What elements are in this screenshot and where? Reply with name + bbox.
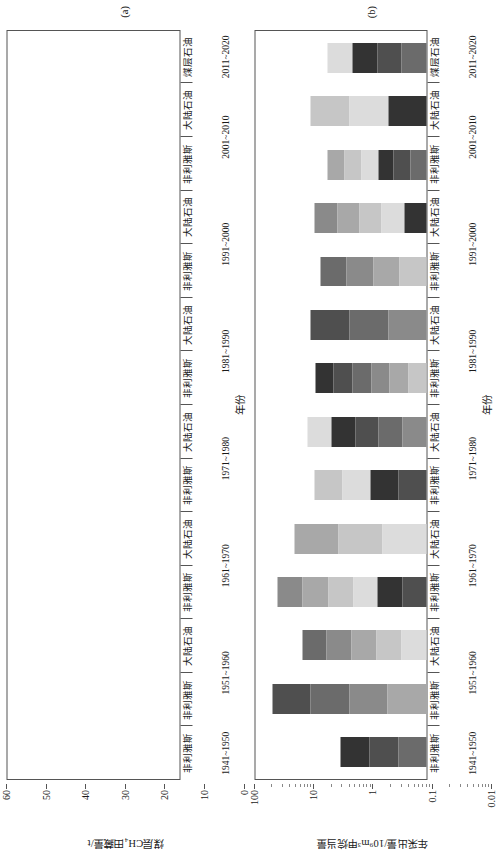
stacked-bar[interactable] (294, 524, 426, 554)
bar-slot[interactable] (7, 352, 179, 405)
stacked-bar[interactable] (314, 363, 426, 393)
panel-a-plot (6, 30, 180, 780)
bar-slot[interactable] (7, 726, 179, 779)
category-separator (180, 672, 192, 673)
y-tick-mark (85, 784, 86, 789)
bar-segment (387, 684, 426, 714)
bar-segment (398, 470, 426, 500)
decade-label: 2011~2020 (220, 30, 230, 84)
decade-label: 1951~1960 (467, 619, 477, 726)
bar-segment (373, 257, 400, 287)
stacked-bar[interactable] (320, 257, 426, 287)
bar-slot[interactable] (255, 565, 427, 618)
bar-slot[interactable] (7, 405, 179, 458)
stacked-bar[interactable] (340, 737, 426, 767)
y-tick-mark-minor (348, 784, 349, 787)
bar-slot[interactable] (255, 31, 427, 84)
bar-slot[interactable] (255, 138, 427, 191)
y-tick-label: 40 (80, 790, 91, 800)
category-name: 大陆石油 (183, 305, 193, 345)
bar-slot[interactable] (7, 619, 179, 672)
stacked-bar[interactable] (272, 684, 426, 714)
category-name: 大陆石油 (430, 197, 440, 237)
bar-slot[interactable] (7, 245, 179, 298)
category-name: 大陆石油 (430, 90, 440, 130)
bar-segment (338, 524, 383, 554)
bar-slot[interactable] (255, 85, 427, 138)
stacked-bar[interactable] (327, 43, 426, 73)
category-separator (427, 618, 439, 619)
panel-b-y-axis-title-text: 年采出量/10⁹m³甲烷当量 (317, 837, 428, 850)
bar-slot[interactable] (7, 672, 179, 725)
y-tick-mark (164, 784, 165, 789)
category-separator (180, 82, 192, 83)
bar-slot[interactable] (255, 619, 427, 672)
bar-segment (327, 150, 344, 180)
panel-a-y-tick-labels: 6050403020100 (6, 784, 244, 828)
stacked-bar[interactable] (307, 417, 426, 447)
bar-slot[interactable] (255, 298, 427, 351)
stacked-bar[interactable] (310, 96, 426, 126)
stacked-bar[interactable] (310, 310, 426, 340)
stacked-bar[interactable] (302, 631, 426, 661)
bar-slot[interactable] (255, 458, 427, 511)
bar-slot[interactable] (7, 138, 179, 191)
category-name: 非利雅斯 (430, 465, 440, 505)
bar-segment (326, 631, 351, 661)
panel-a-plot-area: 非利雅斯非利雅斯大陆石油非利雅斯大陆石油非利雅斯大陆石油非利雅斯大陆石油非利雅斯… (6, 30, 244, 780)
bar-segment (371, 363, 389, 393)
panel-b-label: (b) (366, 6, 377, 18)
bar-slot[interactable] (7, 191, 179, 244)
bar-slot[interactable] (255, 512, 427, 565)
bar-slot[interactable] (7, 85, 179, 138)
bar-slot[interactable] (255, 245, 427, 298)
bar-slot[interactable] (7, 31, 179, 84)
bar-slot[interactable] (255, 191, 427, 244)
bar-slot[interactable] (7, 565, 179, 618)
stacked-bar[interactable] (314, 470, 426, 500)
stacked-bar[interactable] (277, 577, 426, 607)
y-tick-mark (203, 784, 204, 789)
category-separator (180, 458, 192, 459)
category-separator (427, 82, 439, 83)
panel-a-y-axis-title-text: 煤层CH₄田藏量/t (87, 837, 163, 850)
bar-segment (381, 203, 403, 233)
category-name: 非利雅斯 (183, 733, 193, 773)
bar-segment (294, 524, 338, 554)
bar-slot[interactable] (7, 298, 179, 351)
decade-label: 1981~1990 (220, 298, 230, 405)
panel-b-y-axis: 年采出量/10⁹m³甲烷当量 1001010.10.01 (254, 780, 492, 842)
bar-segment (378, 150, 394, 180)
bar-slot[interactable] (255, 405, 427, 458)
bar-segment (377, 577, 402, 607)
category-separator (427, 190, 439, 191)
bar-slot[interactable] (7, 458, 179, 511)
panel-a-x-axis-title: 年份 (231, 30, 246, 780)
category-name: 煤层石油 (183, 37, 193, 77)
category-name: 大陆石油 (430, 519, 440, 559)
y-tick-mark-minor (289, 784, 290, 787)
category-separator (180, 243, 192, 244)
bar-segment (307, 417, 331, 447)
category-separator (427, 350, 439, 351)
category-separator (427, 511, 439, 512)
category-separator (180, 618, 192, 619)
bar-segment (320, 257, 347, 287)
y-tick-label: 0.1 (426, 790, 437, 803)
bar-slot[interactable] (255, 672, 427, 725)
decade-label: 1961~1970 (220, 512, 230, 619)
y-tick-mark (124, 784, 125, 789)
y-tick-mark-minor (307, 784, 308, 787)
stacked-bar[interactable] (314, 203, 426, 233)
bar-slot[interactable] (255, 726, 427, 779)
bar-segment (388, 310, 426, 340)
category-separator (180, 190, 192, 191)
y-tick-mark-minor (467, 784, 468, 787)
y-tick-mark (253, 784, 254, 789)
y-tick-mark-minor (359, 784, 360, 787)
bar-slot[interactable] (255, 352, 427, 405)
panel-a-y-axis: 煤层CH₄田藏量/t 6050403020100 (6, 780, 244, 842)
stacked-bar[interactable] (327, 150, 426, 180)
bar-slot[interactable] (7, 512, 179, 565)
